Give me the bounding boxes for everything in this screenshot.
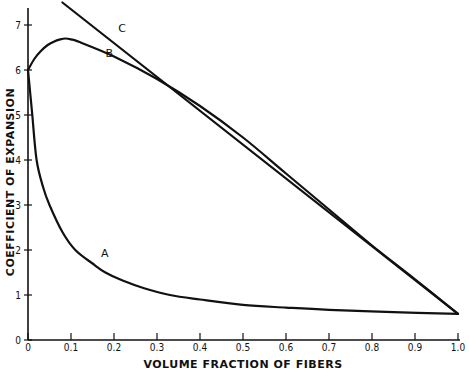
x-tick-label: 0.5 [236,342,250,353]
x-tick-label: 0.3 [150,342,164,353]
x-axis-title: VOLUME FRACTION OF FIBERS [143,358,342,371]
x-tick-label: 0.6 [279,342,294,353]
x-tick-label: 0 [25,342,31,353]
x-tick-label: 0.8 [365,342,380,353]
y-axis-title: COEFFICIENT OF EXPANSION [4,88,17,276]
curves [28,3,458,314]
curve-b [28,39,458,314]
y-tick-label: 6 [15,65,21,76]
x-ticks: 00.10.20.30.40.50.60.70.80.91.0 [25,333,465,353]
axes [28,8,460,340]
y-tick-label: 1 [15,290,21,301]
curve-label-a: A [101,247,109,260]
x-tick-label: 0.4 [193,342,208,353]
coefficient-of-expansion-chart: 00.10.20.30.40.50.60.70.80.91.0 01234567… [0,0,469,379]
y-tick-label: 0 [15,335,21,346]
curve-a [28,70,458,314]
curve-c [62,3,458,314]
x-tick-label: 0.1 [64,342,78,353]
curve-label-b: B [105,47,113,60]
x-tick-label: 0.9 [408,342,423,353]
x-tick-label: 1.0 [451,342,466,353]
x-tick-label: 0.7 [322,342,336,353]
x-tick-label: 0.2 [107,342,121,353]
curve-label-c: C [118,22,126,35]
y-tick-label: 7 [15,20,21,31]
